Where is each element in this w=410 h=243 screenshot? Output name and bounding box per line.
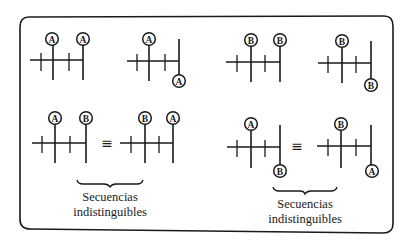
svg-text:A: A bbox=[146, 35, 153, 45]
equivalence-group-right: A B ≡ B A Secuencias bbox=[227, 118, 378, 226]
node-b-circle: B bbox=[139, 112, 152, 125]
sequence-diagram-figure: A A A A B B bbox=[0, 0, 410, 243]
node-a-circle: A bbox=[49, 112, 62, 125]
svg-text:B: B bbox=[248, 36, 255, 46]
svg-text:A: A bbox=[49, 35, 56, 45]
node-b-circle: B bbox=[336, 35, 349, 48]
equivalence-symbol: ≡ bbox=[101, 135, 113, 151]
underbrace bbox=[77, 180, 143, 187]
node-b-circle: B bbox=[365, 79, 378, 92]
node-b-circle: B bbox=[274, 165, 287, 178]
svg-text:A: A bbox=[170, 114, 177, 124]
svg-text:B: B bbox=[368, 81, 375, 91]
svg-text:A: A bbox=[248, 120, 255, 130]
node-a-circle: A bbox=[173, 75, 186, 88]
node-a-circle: A bbox=[366, 165, 379, 178]
diagram-1-aa-top: A A bbox=[30, 33, 89, 80]
svg-text:A: A bbox=[80, 35, 87, 45]
caption-line-2: indistinguibles bbox=[268, 212, 342, 226]
caption-line-2: indistinguibles bbox=[73, 205, 147, 219]
node-a-circle: A bbox=[77, 33, 90, 46]
svg-text:A: A bbox=[176, 77, 183, 87]
caption-line-1: Secuencias bbox=[82, 190, 138, 204]
node-a-circle: A bbox=[167, 112, 180, 125]
node-b-circle: B bbox=[245, 34, 258, 47]
svg-text:A: A bbox=[52, 114, 59, 124]
diagram-2-a-top-a-bottom: A A bbox=[127, 33, 185, 88]
diagram-ab-top: A B bbox=[32, 112, 92, 163]
svg-text:B: B bbox=[277, 167, 284, 177]
equivalence-symbol: ≡ bbox=[291, 138, 303, 154]
diagram-3-bb-top: B B bbox=[226, 34, 286, 82]
node-a-circle: A bbox=[245, 118, 258, 131]
caption-line-1: Secuencias bbox=[277, 197, 333, 211]
diagram-a-top-b-bottom: A B bbox=[227, 118, 286, 178]
svg-text:B: B bbox=[277, 36, 284, 46]
diagram-b-top-a-bottom: B A bbox=[317, 118, 378, 178]
node-a-circle: A bbox=[46, 33, 59, 46]
diagram-ba-top: B A bbox=[120, 112, 179, 163]
svg-text:B: B bbox=[142, 114, 149, 124]
diagram-4-b-top-b-bottom: B B bbox=[318, 35, 377, 92]
svg-text:B: B bbox=[83, 114, 90, 124]
node-b-circle: B bbox=[80, 112, 93, 125]
svg-text:A: A bbox=[369, 167, 376, 177]
node-a-circle: A bbox=[143, 33, 156, 46]
underbrace bbox=[273, 187, 337, 194]
node-b-circle: B bbox=[274, 34, 287, 47]
equivalence-group-left: A B ≡ B A Secuencias bbox=[32, 112, 179, 219]
svg-text:B: B bbox=[338, 120, 345, 130]
svg-text:B: B bbox=[339, 37, 346, 47]
node-b-circle: B bbox=[335, 118, 348, 131]
